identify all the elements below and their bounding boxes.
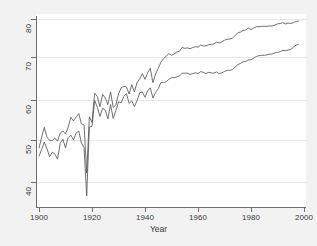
x-tick-2000 xyxy=(304,208,305,212)
x-axis-title: Year xyxy=(0,224,317,234)
y-tick-label-80: 80 xyxy=(24,18,33,40)
x-tick-label-1960: 1960 xyxy=(181,213,215,222)
x-tick-label-1920: 1920 xyxy=(75,213,109,222)
x-tick-1940 xyxy=(145,208,146,212)
x-tick-label-2000: 2000 xyxy=(287,213,317,222)
x-tick-label-1980: 1980 xyxy=(234,213,268,222)
chart-figure: 80 70 60 50 40 1900 1920 1940 1960 1980 … xyxy=(0,0,317,246)
x-tick-1920 xyxy=(92,208,93,212)
line-series-male xyxy=(39,44,299,196)
y-tick-label-60: 60 xyxy=(24,99,33,121)
x-tick-1900 xyxy=(39,208,40,212)
y-tick-label-50: 50 xyxy=(24,139,33,161)
x-axis-line xyxy=(36,207,306,208)
series-plot xyxy=(36,14,306,207)
y-tick-label-70: 70 xyxy=(24,56,33,78)
x-tick-label-1900: 1900 xyxy=(22,213,56,222)
line-series-female xyxy=(39,21,299,173)
x-tick-1980 xyxy=(251,208,252,212)
y-tick-label-40: 40 xyxy=(24,181,33,203)
x-tick-1960 xyxy=(198,208,199,212)
x-tick-label-1940: 1940 xyxy=(128,213,162,222)
